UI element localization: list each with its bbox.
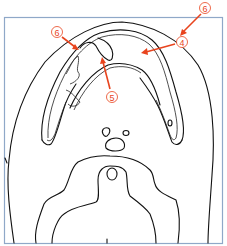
left-small-oval bbox=[102, 128, 109, 137]
right-small-oval bbox=[123, 131, 129, 136]
right-foramen bbox=[168, 120, 172, 126]
figure-frame bbox=[5, 18, 223, 244]
arrow-6-left bbox=[62, 37, 79, 50]
callout-4: 4 bbox=[177, 37, 188, 48]
callout-5: 5 bbox=[107, 92, 118, 103]
anatomical-diagram: 6 6 4 5 bbox=[0, 0, 227, 246]
right-ramus-inner bbox=[156, 100, 176, 140]
left-edge-mark bbox=[5, 158, 7, 163]
spinal-canal bbox=[107, 168, 117, 180]
pharynx-outer bbox=[35, 156, 179, 243]
airway bbox=[52, 166, 156, 243]
lingual-arch-2 bbox=[74, 67, 141, 110]
outer-contour bbox=[8, 22, 213, 243]
callout-6-left: 6 bbox=[52, 27, 63, 38]
callout-6-top: 6 bbox=[200, 3, 211, 14]
svg-text:6: 6 bbox=[202, 4, 207, 14]
svg-text:6: 6 bbox=[54, 28, 59, 38]
svg-text:4: 4 bbox=[179, 38, 184, 48]
left-ramus-inner bbox=[47, 102, 66, 141]
svg-text:5: 5 bbox=[109, 93, 114, 103]
mandible-outer bbox=[42, 30, 184, 140]
center-oval bbox=[106, 138, 125, 151]
